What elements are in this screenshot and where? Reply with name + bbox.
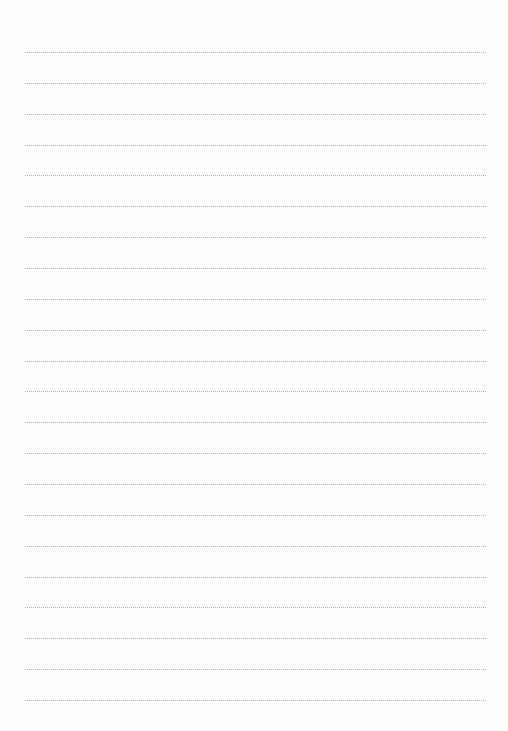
ruled-line: [25, 669, 486, 670]
ruled-line: [25, 299, 486, 300]
ruled-line: [25, 330, 486, 331]
ruled-line: [25, 175, 486, 176]
ruled-line: [25, 638, 486, 639]
ruled-line: [25, 268, 486, 269]
ruled-line: [25, 546, 486, 547]
ruled-line: [25, 700, 486, 701]
ruled-line: [25, 607, 486, 608]
ruled-line: [25, 83, 486, 84]
ruled-line: [25, 422, 486, 423]
ruled-line: [25, 515, 486, 516]
ruled-line: [25, 114, 486, 115]
ruled-line: [25, 361, 486, 362]
ruled-line: [25, 453, 486, 454]
ruled-line: [25, 577, 486, 578]
ruled-line: [25, 145, 486, 146]
ruled-line: [25, 391, 486, 392]
ruled-line: [25, 52, 486, 53]
ruled-line: [25, 237, 486, 238]
ruled-line: [25, 206, 486, 207]
ruled-line: [25, 484, 486, 485]
lined-paper-page: [0, 0, 508, 731]
